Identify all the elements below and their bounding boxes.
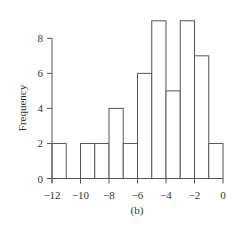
x-tick-label: −6 <box>132 189 144 201</box>
histogram-bar-4 <box>109 108 123 178</box>
histogram-bar-7 <box>152 21 166 179</box>
x-tick-label: −10 <box>72 189 90 201</box>
histogram-bar-11 <box>209 143 223 178</box>
histogram-bar-5 <box>123 143 137 178</box>
bars-group <box>52 21 223 179</box>
y-tick-label: 2 <box>38 137 44 149</box>
histogram-bar-0 <box>52 143 66 178</box>
y-tick-label: 8 <box>38 32 44 44</box>
x-tick-label: −8 <box>103 189 115 201</box>
x-ticks-group: −12−10−8−6−4−20 <box>43 179 226 201</box>
histogram-bar-9 <box>180 21 194 179</box>
y-tick-label: 0 <box>38 173 44 185</box>
chart-caption: (b) <box>131 204 144 217</box>
histogram-bar-10 <box>195 56 209 179</box>
histogram-bar-8 <box>166 91 180 179</box>
x-tick-label: −4 <box>160 189 172 201</box>
y-axis-label: Frequency <box>16 84 28 131</box>
histogram-bar-2 <box>81 143 95 178</box>
histogram-chart: 02468 −12−10−8−6−4−20 Frequency (b) <box>0 0 247 238</box>
x-tick-label: −12 <box>43 189 60 201</box>
y-tick-label: 6 <box>38 67 44 79</box>
histogram-bar-3 <box>95 143 109 178</box>
y-ticks-group: 02468 <box>38 32 53 184</box>
histogram-bar-6 <box>138 73 152 178</box>
y-tick-label: 4 <box>38 102 44 114</box>
x-tick-label: −2 <box>189 189 201 201</box>
x-tick-label: 0 <box>220 189 226 201</box>
